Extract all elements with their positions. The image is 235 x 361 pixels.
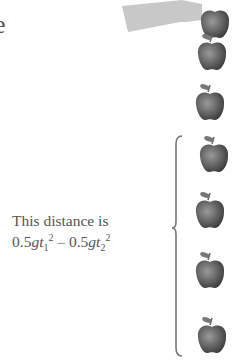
caption-formula: 0.5gt12 – 0.5gt22 bbox=[12, 229, 172, 256]
apple-icon bbox=[193, 190, 227, 230]
hand-icon bbox=[122, 0, 202, 36]
apple-icon bbox=[195, 32, 229, 72]
apple-icon bbox=[193, 250, 227, 290]
apple-icon bbox=[193, 82, 227, 122]
cut-off-letter: e bbox=[0, 10, 6, 40]
caption-line1: This distance is bbox=[12, 212, 172, 229]
brace-icon bbox=[172, 134, 184, 358]
apple-icon bbox=[197, 134, 231, 174]
distance-caption: This distance is 0.5gt12 – 0.5gt22 bbox=[12, 212, 172, 256]
apple-icon bbox=[195, 315, 229, 355]
